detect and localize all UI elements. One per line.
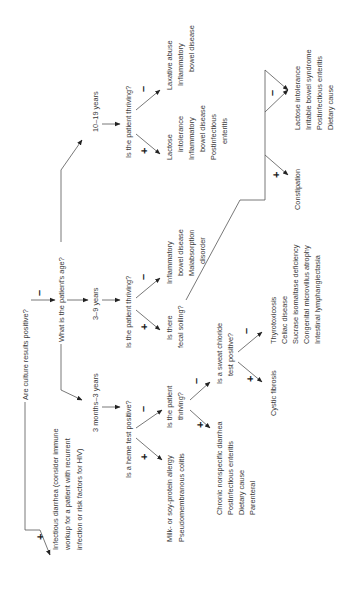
age-teen-label: 10–19 years (91, 91, 100, 132)
minus-sign: – (240, 328, 252, 334)
soiling-positive-cause: Constipation (293, 169, 302, 210)
svg-text:Dietary cause: Dietary cause (237, 470, 246, 515)
svg-text:Chronic nonspecific diarrhea: Chronic nonspecific diarrhea (215, 420, 224, 515)
teen-thriving-negative-causes: Laxative abuse Inflammatory bowel diseas… (165, 25, 196, 90)
minus-sign: – (190, 378, 202, 384)
svg-text:disorder: disorder (198, 237, 207, 264)
connector-sweat-neg (238, 332, 262, 352)
svg-text:thriving?: thriving? (176, 392, 185, 420)
connector-soiling-branch (186, 70, 265, 300)
svg-text:bowel disease: bowel disease (198, 105, 207, 152)
svg-text:Lactose intolerance: Lactose intolerance (293, 66, 302, 130)
plus-sign: + (138, 148, 150, 154)
svg-text:test positive?: test positive? (226, 333, 235, 376)
svg-text:enteritis: enteritis (220, 118, 229, 144)
svg-text:fecal soiling?: fecal soiling? (176, 305, 185, 348)
infant-thriving-question: Is the patient thriving? (165, 386, 185, 428)
connector-soiling-neg (265, 70, 288, 90)
child-thriving-negative-causes: Inflammatory bowel disease Malabsorption… (165, 229, 207, 284)
svg-text:Postinfectious enteritis: Postinfectious enteritis (226, 441, 235, 515)
connector-child-thriving-neg (136, 278, 160, 298)
plus-sign: + (138, 454, 150, 460)
svg-text:Laxative abuse: Laxative abuse (165, 40, 174, 90)
plus-sign: + (138, 324, 150, 330)
svg-text:workup for a patient with recu: workup for a patient with recurrent (63, 438, 72, 551)
svg-text:Is there: Is there (165, 315, 174, 340)
minus-sign: – (137, 274, 149, 280)
connector-age-infant (61, 344, 82, 400)
svg-text:bowel disease: bowel disease (187, 25, 196, 72)
plus-sign: + (34, 534, 46, 540)
minus-sign: – (266, 90, 278, 96)
svg-text:Thyrotoxicosis: Thyrotoxicosis (269, 296, 278, 344)
sweat-chloride-question: Is a sweat chloride test positive? (215, 323, 235, 384)
svg-text:Milk- or soy-protein allergy: Milk- or soy-protein allergy (165, 455, 174, 542)
age-child-label: 3–9 years (91, 287, 100, 320)
soiling-negative-causes: Lactose intolerance Irritable bowel synd… (293, 49, 335, 130)
svg-text:infection or risk factors for: infection or risk factors for HIV) (75, 449, 84, 550)
flowchart: Are culture results positive? + – Infect… (0, 0, 349, 610)
svg-text:Inflammatory: Inflammatory (187, 117, 196, 160)
fecal-soiling-question: Is there fecal soiling? (165, 305, 185, 348)
age-question: What is the patient's age? (57, 257, 66, 342)
minus-sign: – (137, 406, 149, 412)
minus-sign: – (33, 290, 45, 296)
teen-thriving-question: Is the patient thriving? (124, 86, 133, 158)
teen-thriving-positive-causes: Lactose intolerance Inflammatory bowel d… (165, 105, 229, 160)
minus-sign: – (137, 86, 149, 92)
svg-text:Lactose: Lactose (165, 134, 174, 160)
svg-text:Sucrase isomaltase deficiency: Sucrase isomaltase deficiency (291, 244, 300, 344)
svg-text:Celiac disease: Celiac disease (280, 296, 289, 344)
svg-text:Inflammatory: Inflammatory (176, 43, 185, 86)
svg-text:Postinfectious enteritis: Postinfectious enteritis (315, 56, 324, 130)
svg-text:intolerance: intolerance (176, 116, 185, 152)
svg-text:Is a sweat chloride: Is a sweat chloride (215, 323, 224, 384)
infant-thriving-positive-causes: Chronic nonspecific diarrhea Postinfecti… (215, 420, 257, 515)
connector-age-teen (61, 140, 82, 242)
connector-culture-left (25, 402, 50, 555)
culture-question: Are culture results positive? (21, 309, 30, 400)
connector-teen-thriving-neg (136, 90, 160, 110)
sweat-negative-causes: Thyrotoxicosis Celiac disease Sucrase is… (269, 244, 322, 344)
svg-text:bowel disease: bowel disease (176, 229, 185, 276)
child-thriving-question: Is the patient thriving? (124, 276, 133, 348)
svg-text:Dietary cause: Dietary cause (326, 85, 335, 130)
svg-text:Congenital microvillus atrophy: Congenital microvillus atrophy (302, 245, 311, 344)
heme-question: Is a heme test positive? (124, 400, 133, 478)
heme-positive-causes: Milk- or soy-protein allergy Pseudomembr… (165, 453, 186, 542)
svg-text:Infectious diarrhea (consider: Infectious diarrhea (consider immune (51, 428, 60, 550)
svg-text:Inflammatory: Inflammatory (165, 241, 174, 284)
age-infant-label: 3 months–3 years (91, 373, 100, 432)
plus-sign: + (244, 376, 256, 382)
svg-text:Pseudomembranous colitis: Pseudomembranous colitis (177, 453, 186, 542)
svg-text:Parenteral: Parenteral (248, 481, 257, 515)
svg-text:Malabsorption: Malabsorption (187, 230, 196, 276)
plus-sign: + (270, 172, 282, 178)
svg-text:Irritable bowel syndrome: Irritable bowel syndrome (304, 49, 313, 130)
svg-text:Intestinal lymphangiectasia: Intestinal lymphangiectasia (313, 254, 322, 344)
infectious-diarrhea-text: Infectious diarrhea (consider immune wor… (51, 428, 84, 551)
svg-text:Postinfectious: Postinfectious (209, 114, 218, 160)
svg-text:Is the patient: Is the patient (165, 386, 174, 428)
plus-sign: + (194, 422, 206, 428)
sweat-positive-cause: Cystic fibrosis (269, 370, 278, 416)
